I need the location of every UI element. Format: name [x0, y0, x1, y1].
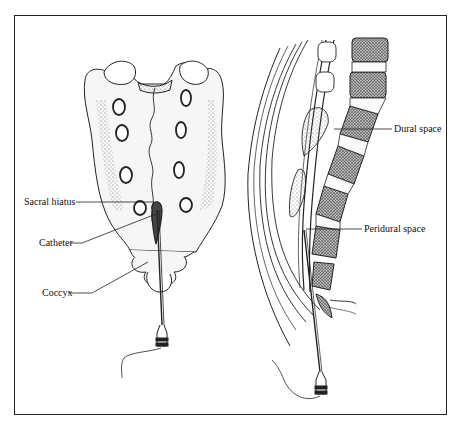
sacrum — [84, 61, 225, 292]
label-catheter: Catheter — [39, 238, 73, 248]
label-peridural-space: Peridural space — [364, 224, 425, 234]
illustration — [0, 0, 464, 425]
label-coccyx: Coccyx — [42, 288, 73, 298]
label-dural-space: Dural space — [394, 124, 441, 134]
label-sacral-hiatus: Sacral hiatus — [24, 197, 75, 207]
